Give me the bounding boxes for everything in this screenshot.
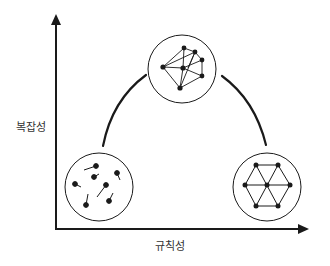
node-disorder (65, 153, 133, 221)
node-order (233, 153, 301, 221)
y-axis-label: 복잡성 (16, 118, 46, 134)
node-complex (148, 35, 216, 103)
x-axis-arrow-icon (298, 224, 309, 234)
complexity-diagram (0, 0, 330, 266)
y-axis-arrow-icon (51, 14, 61, 25)
x-axis-label: 규칙성 (155, 237, 185, 253)
